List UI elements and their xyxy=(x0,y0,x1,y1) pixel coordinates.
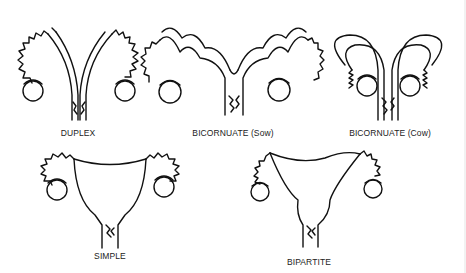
label-simple: SIMPLE xyxy=(94,251,126,261)
bicornuate-sow-figure xyxy=(141,28,324,115)
label-bicornuate-sow: BICORNUATE (Sow) xyxy=(192,128,273,138)
simple-figure xyxy=(41,153,179,248)
label-duplex: DUPLEX xyxy=(61,128,96,138)
duplex-figure xyxy=(18,28,138,120)
bicornuate-cow-figure xyxy=(335,35,442,120)
label-bicornuate-cow: BICORNUATE (Cow) xyxy=(349,128,431,138)
bipartite-figure xyxy=(251,151,382,247)
label-bipartite: BIPARTITE xyxy=(287,257,331,267)
